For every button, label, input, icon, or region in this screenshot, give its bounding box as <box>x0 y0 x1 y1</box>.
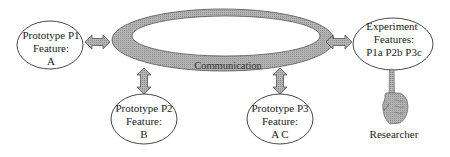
experiment-features-value: P1a P2b P3c <box>366 46 422 58</box>
researcher-label: Researcher <box>370 128 419 140</box>
experiment-features-label: Features: <box>374 33 414 45</box>
p2-feature-value: B <box>140 128 147 140</box>
p1-title: Prototype P1 <box>22 29 79 41</box>
communication-hub: Communication <box>112 9 334 71</box>
communication-label: Communication <box>194 60 262 71</box>
node-prototype-p3: Prototype P3 Feature: A C <box>247 94 313 144</box>
node-experiment: Experiment Features: P1a P2b P3c <box>353 18 433 70</box>
p3-feature-label: Feature: <box>262 115 298 127</box>
node-prototype-p1: Prototype P1 Feature: A <box>17 21 83 69</box>
pointing-hand-icon <box>383 69 408 124</box>
p3-hub-arrow <box>273 68 287 94</box>
p3-feature-value: A C <box>271 128 288 140</box>
p2-feature-label: Feature: <box>126 115 162 127</box>
p1-feature-value: A <box>47 55 55 67</box>
p1-feature-label: Feature: <box>33 42 69 54</box>
node-prototype-p2: Prototype P2 Feature: B <box>111 94 177 144</box>
experiment-title: Experiment <box>366 20 417 32</box>
p1-hub-arrow <box>85 35 110 49</box>
p2-hub-arrow <box>137 68 151 94</box>
p2-title: Prototype P2 <box>115 102 172 114</box>
p3-title: Prototype P3 <box>251 102 309 114</box>
prototype-communication-diagram: Communication Prototype P1 Feature: A Pr… <box>0 0 450 157</box>
